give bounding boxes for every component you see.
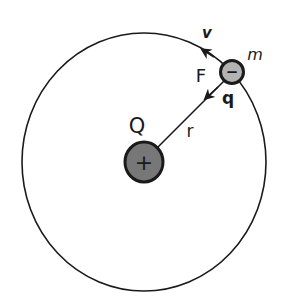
orbit-diagram: + − v m F q Q r (0, 0, 284, 299)
electron: − (221, 61, 244, 84)
electron-sign: − (226, 63, 239, 81)
label-mass: m (247, 45, 263, 64)
velocity-arrow (203, 50, 214, 57)
label-velocity: v (202, 24, 213, 42)
label-force: F (196, 65, 206, 86)
label-orbiting-charge: q (222, 88, 234, 108)
nucleus: + (125, 142, 163, 182)
label-radius: r (187, 121, 194, 141)
force-arrow (206, 87, 218, 98)
label-central-charge: Q (129, 114, 146, 138)
nucleus-sign: + (135, 150, 153, 175)
